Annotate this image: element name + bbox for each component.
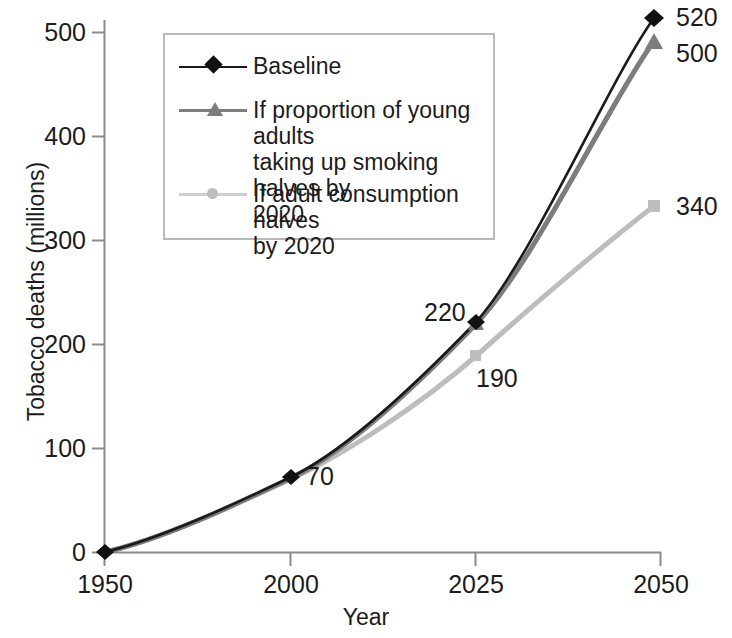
x-axis-ticks	[105, 552, 661, 566]
triangle-marker	[179, 97, 247, 123]
legend-label-adult-consumption: If adult consumption halves by 2020	[247, 181, 493, 259]
legend-label-baseline: Baseline	[247, 53, 341, 79]
legend-item-baseline[interactable]: Baseline	[179, 53, 341, 79]
data-label-70: 70	[306, 464, 334, 489]
data-label-190: 190	[476, 366, 518, 391]
x-tick-label-2025: 2025	[421, 572, 531, 597]
y-axis-ticks	[92, 33, 104, 553]
data-label-520: 520	[676, 5, 718, 30]
data-label-500: 500	[676, 41, 718, 66]
circle-marker	[179, 181, 247, 207]
x-tick-label-1950: 1950	[50, 572, 160, 597]
legend-item-adult-consumption[interactable]: If adult consumption halves by 2020	[179, 181, 493, 259]
x-axis-title: Year	[0, 604, 732, 631]
legend: Baseline If proportion of young adults t…	[163, 33, 495, 240]
x-tick-label-2050: 2050	[606, 572, 716, 597]
tobacco-deaths-line-chart: 0 100 200 300 400 500 1950 2000 2025 205…	[0, 0, 732, 638]
y-tick-label-500: 500	[0, 20, 86, 45]
data-label-220: 220	[424, 300, 466, 325]
diamond-marker	[179, 53, 247, 79]
data-label-340: 340	[676, 194, 718, 219]
x-tick-label-2000: 2000	[236, 572, 346, 597]
y-tick-label-0: 0	[0, 540, 86, 565]
series-markers-young-adults	[468, 33, 663, 330]
y-axis-title: Tobacco deaths (millions)	[23, 132, 50, 452]
